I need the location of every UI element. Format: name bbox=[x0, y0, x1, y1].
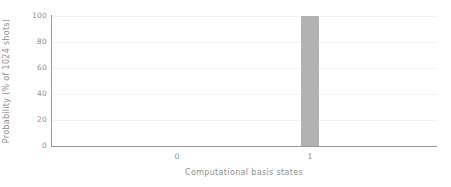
y-tick-label: 40 bbox=[25, 90, 47, 98]
bar-state-1[interactable] bbox=[301, 16, 319, 146]
gridline-60 bbox=[51, 68, 437, 69]
x-axis-label: Computational basis states bbox=[51, 168, 437, 178]
x-axis-spine bbox=[51, 146, 437, 147]
y-tick-label: 60 bbox=[25, 64, 47, 72]
histogram-figure: Probability (% of 1024 shots) 100 80 60 … bbox=[0, 0, 451, 187]
plot-area bbox=[51, 16, 437, 146]
y-axis-label: Probability (% of 1024 shots) bbox=[2, 19, 12, 144]
x-tick-label-0: 0 bbox=[162, 152, 192, 161]
x-tick-label-1: 1 bbox=[295, 152, 325, 161]
y-axis-label-container: Probability (% of 1024 shots) bbox=[0, 16, 14, 146]
y-tick-label: 20 bbox=[25, 116, 47, 124]
y-axis-spine bbox=[51, 15, 52, 146]
y-tick-label: 80 bbox=[25, 38, 47, 46]
y-axis-tick-labels: 100 80 60 40 20 0 bbox=[24, 0, 47, 187]
y-tick-label: 0 bbox=[25, 142, 47, 150]
gridline-40 bbox=[51, 94, 437, 95]
y-tick-label: 100 bbox=[25, 12, 47, 20]
gridline-80 bbox=[51, 42, 437, 43]
gridline-20 bbox=[51, 120, 437, 121]
gridline-100 bbox=[51, 16, 437, 17]
